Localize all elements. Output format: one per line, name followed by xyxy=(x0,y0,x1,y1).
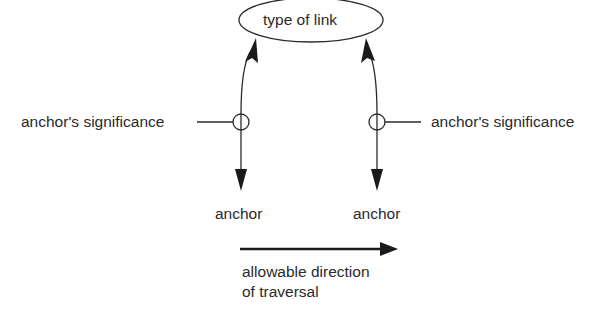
legend-caption-line1: allowable direction xyxy=(242,263,370,281)
right-anchor-connector xyxy=(361,38,421,191)
right-significance-label: anchor's significance xyxy=(431,113,574,131)
traversal-direction-arrow xyxy=(240,242,398,256)
legend-caption-line2: of traversal xyxy=(242,283,319,301)
right-anchor-label: anchor xyxy=(353,205,400,223)
left-anchor-connector xyxy=(197,38,258,191)
right-up-arrowhead-icon xyxy=(361,38,375,63)
right-down-arrowhead-icon xyxy=(371,169,383,191)
left-down-arrowhead-icon xyxy=(235,169,247,191)
link-type-label: type of link xyxy=(263,11,337,29)
left-up-arrowhead-icon xyxy=(245,38,258,63)
left-anchor-label: anchor xyxy=(215,205,262,223)
left-significance-label: anchor's significance xyxy=(21,113,164,131)
right-arrowhead-icon xyxy=(380,242,398,256)
